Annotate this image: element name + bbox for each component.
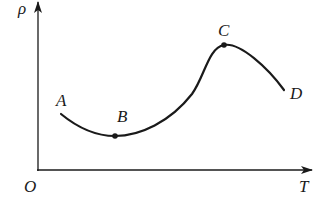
point-d-label: D	[290, 85, 302, 102]
point-a-label: A	[56, 92, 66, 109]
rho-t-curve	[61, 45, 284, 136]
point-b-label: B	[117, 108, 127, 125]
point-c-marker	[221, 42, 227, 48]
y-axis-label: ρ	[18, 0, 26, 17]
point-b-marker	[112, 133, 118, 139]
x-axis-label: T	[299, 178, 308, 195]
diagram-canvas	[0, 0, 322, 201]
origin-label: O	[24, 178, 36, 195]
rho-t-diagram: ρ T O A B C D	[0, 0, 322, 201]
point-c-label: C	[218, 22, 229, 39]
